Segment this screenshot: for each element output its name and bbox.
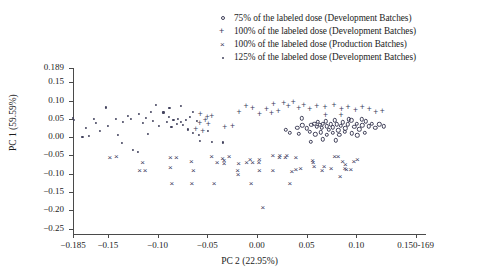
x-axis-line xyxy=(73,234,426,235)
data-point-plus xyxy=(367,105,372,114)
data-point-dot xyxy=(145,117,147,119)
legend-item-label: 100% of the labeled dose (Production Bat… xyxy=(234,38,407,51)
data-point-dot xyxy=(99,130,101,132)
data-point-dot xyxy=(147,133,149,135)
data-point-cross xyxy=(114,153,119,161)
y-tick-label: −0.20 xyxy=(43,204,64,214)
data-point-dot xyxy=(176,123,178,125)
data-point-dot xyxy=(142,122,144,124)
legend-item-75-development: 75% of the labeled dose (Development Bat… xyxy=(218,12,470,25)
legend-item-100-development: + 100% of the labeled dose (Development … xyxy=(218,25,470,38)
data-point-dot xyxy=(88,135,90,137)
x-tick-label: −0.15 xyxy=(97,240,118,250)
data-point-plus xyxy=(276,107,281,116)
data-point-dot xyxy=(107,125,109,127)
data-point-circle xyxy=(297,132,301,136)
data-point-dot xyxy=(187,128,189,130)
data-point-circle xyxy=(373,125,377,129)
data-point-plus xyxy=(237,107,242,116)
data-point-cross xyxy=(137,167,142,175)
y-axis-label: PC 1 (59.59%) xyxy=(8,94,18,151)
data-point-plus xyxy=(244,102,249,111)
data-point-plus xyxy=(338,111,343,120)
x-axis-label: PC 2 (22.95%) xyxy=(73,256,426,266)
data-point-circle xyxy=(364,119,368,123)
data-point-dot xyxy=(185,119,187,121)
data-point-cross xyxy=(338,173,343,181)
data-point-plus xyxy=(314,102,319,111)
data-point-dot xyxy=(130,118,132,120)
y-tick: −0.05 xyxy=(69,155,73,156)
data-point-cross xyxy=(227,153,232,161)
data-point-cross xyxy=(312,163,317,171)
data-point-dot xyxy=(182,124,184,126)
data-point-circle xyxy=(363,130,367,134)
data-point-dot xyxy=(81,136,83,138)
data-point-dot xyxy=(180,105,182,107)
data-point-dot xyxy=(211,141,213,143)
data-point-cross xyxy=(215,159,220,167)
data-point-cross xyxy=(189,158,194,166)
data-point-circle xyxy=(343,130,347,134)
data-point-circle xyxy=(299,116,303,120)
data-point-cross xyxy=(209,153,214,161)
y-tick: 0.10 xyxy=(69,101,73,102)
data-point-circle xyxy=(324,133,328,137)
y-tick-label: 0.05 xyxy=(48,113,64,123)
data-point-circle xyxy=(288,131,292,135)
chart-legend: 75% of the labeled dose (Development Bat… xyxy=(218,12,470,64)
cross-marker-icon: × xyxy=(218,38,230,51)
y-tick-label: 0.00 xyxy=(48,131,64,141)
legend-item-125-development: 125% of the labeled dose (Development Ba… xyxy=(218,51,470,64)
y-tick-label: −0.05 xyxy=(43,149,64,159)
data-point-plus xyxy=(301,101,306,110)
data-point-dot xyxy=(170,125,172,127)
data-point-dot xyxy=(73,119,75,121)
data-point-dot xyxy=(85,127,87,129)
x-tick-label: 0.00 xyxy=(249,240,265,250)
plus-marker-icon: + xyxy=(218,25,230,38)
data-point-cross xyxy=(107,154,112,162)
data-point-dot xyxy=(127,115,129,117)
data-point-dot xyxy=(222,141,224,143)
data-point-circle xyxy=(382,124,386,128)
x-tick: 0.150-169 xyxy=(416,234,417,238)
data-point-circle xyxy=(330,131,334,135)
data-point-dot xyxy=(162,111,164,113)
y-tick: 0.15 xyxy=(69,82,73,83)
data-point-cross xyxy=(277,152,282,160)
data-point-plus xyxy=(332,101,337,110)
data-point-circle xyxy=(360,123,364,127)
y-tick-label: 0.189 xyxy=(44,62,64,72)
data-point-cross xyxy=(191,167,196,175)
data-point-cross xyxy=(189,180,194,188)
data-point-dot xyxy=(189,116,191,118)
x-tick-label: −0.10 xyxy=(147,240,168,250)
x-tick: −0.15 xyxy=(108,234,109,238)
data-point-dot xyxy=(137,151,139,153)
data-point-dot xyxy=(177,118,179,120)
data-point-cross xyxy=(168,154,173,162)
data-point-dot xyxy=(192,111,194,113)
data-point-cross xyxy=(261,204,266,212)
data-point-circle xyxy=(313,132,317,136)
data-point-dot xyxy=(207,129,209,131)
data-point-cross xyxy=(222,160,227,168)
data-point-cross xyxy=(284,152,289,160)
data-point-plus xyxy=(345,102,350,111)
y-tick: 0.00 xyxy=(69,137,73,138)
data-point-dot xyxy=(105,106,107,108)
data-point-circle xyxy=(357,127,361,131)
y-tick: −0.25 xyxy=(69,229,73,230)
data-point-cross xyxy=(170,180,175,188)
data-point-dot xyxy=(150,110,152,112)
circle-marker-icon xyxy=(218,12,230,25)
data-point-cross xyxy=(271,167,276,175)
data-point-dot xyxy=(115,118,117,120)
data-point-dot xyxy=(93,118,95,120)
data-point-cross xyxy=(271,152,276,160)
data-point-dot xyxy=(166,121,168,123)
data-point-circle xyxy=(346,122,350,126)
data-point-plus xyxy=(380,107,385,116)
data-point-circle xyxy=(308,140,312,144)
